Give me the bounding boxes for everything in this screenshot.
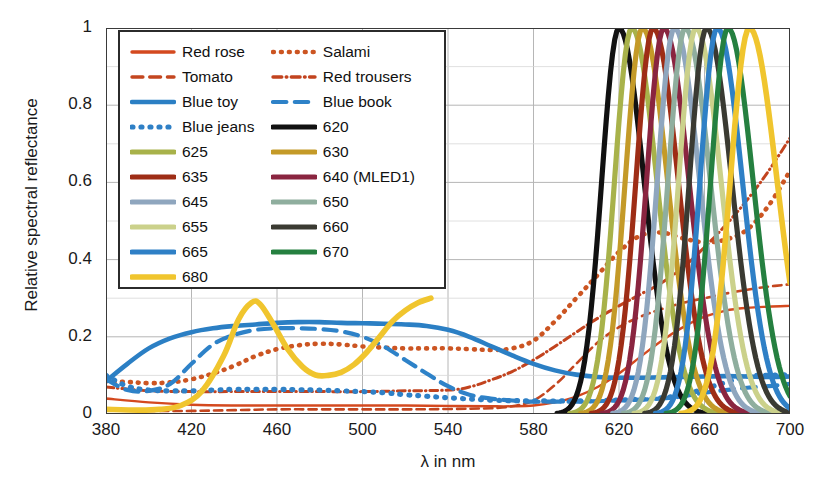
- legend-sample-cell: [271, 64, 323, 89]
- legend-sample-cell: [271, 164, 323, 189]
- legend-label: 680: [182, 264, 271, 289]
- legend-sample-cell: [130, 164, 182, 189]
- legend-row: 625630: [130, 139, 436, 164]
- x-axis-label: λ in nm: [106, 452, 790, 472]
- legend-label: 620: [323, 114, 436, 139]
- legend-swatch-red_rose: [130, 45, 176, 59]
- legend-row: 635640 (MLED1): [130, 164, 436, 189]
- chart-legend: Red roseSalamiTomatoRed trousersBlue toy…: [118, 30, 446, 289]
- legend-table: Red roseSalamiTomatoRed trousersBlue toy…: [130, 39, 436, 289]
- legend-sample-cell: [130, 264, 182, 289]
- legend-swatch-blue_book: [271, 95, 317, 109]
- y-tick-label: 0.8: [32, 94, 92, 114]
- legend-label: Salami: [323, 39, 436, 64]
- legend-swatch-red_trousers: [271, 70, 317, 84]
- legend-label: 625: [182, 139, 271, 164]
- legend-row: TomatoRed trousers: [130, 64, 436, 89]
- legend-swatch-salami: [271, 45, 317, 59]
- legend-label: 650: [323, 189, 436, 214]
- legend-label: 660: [323, 214, 436, 239]
- y-tick-label: 1: [32, 17, 92, 37]
- legend-label: 645: [182, 189, 271, 214]
- x-axis-ticks: 380420460500540580620660700: [0, 420, 825, 450]
- legend-label: Tomato: [182, 64, 271, 89]
- legend-sample-cell: [271, 264, 323, 289]
- legend-swatch-led625: [130, 145, 176, 159]
- legend-sample-cell: [271, 189, 323, 214]
- legend-sample-cell: [130, 114, 182, 139]
- x-tick-label: 500: [323, 420, 403, 440]
- legend-swatch-led635: [130, 170, 176, 184]
- x-tick-label: 700: [750, 420, 825, 440]
- legend-swatch-led645: [130, 195, 176, 209]
- legend-label: 640 (MLED1): [323, 164, 436, 189]
- spectral-reflectance-figure: Relative spectral reflectance λ in nm 00…: [0, 0, 825, 488]
- legend-swatch-led665: [130, 245, 176, 259]
- legend-sample-cell: [271, 89, 323, 114]
- legend-swatch-tomato: [130, 70, 176, 84]
- legend-row: Red roseSalami: [130, 39, 436, 64]
- legend-sample-cell: [130, 214, 182, 239]
- legend-label: Red trousers: [323, 64, 436, 89]
- legend-label: Blue book: [323, 89, 436, 114]
- legend-sample-cell: [271, 239, 323, 264]
- legend-swatch-blue_toy: [130, 95, 176, 109]
- legend-sample-cell: [130, 89, 182, 114]
- legend-label: Blue toy: [182, 89, 271, 114]
- legend-sample-cell: [130, 239, 182, 264]
- legend-sample-cell: [271, 139, 323, 164]
- legend-sample-cell: [130, 139, 182, 164]
- y-tick-label: 0.2: [32, 326, 92, 346]
- x-tick-label: 660: [665, 420, 745, 440]
- y-tick-label: 0.6: [32, 171, 92, 191]
- legend-row: 645650: [130, 189, 436, 214]
- legend-swatch-led660: [271, 220, 317, 234]
- legend-sample-cell: [271, 39, 323, 64]
- x-tick-label: 420: [152, 420, 232, 440]
- legend-label: 665: [182, 239, 271, 264]
- legend-row: 680: [130, 264, 436, 289]
- legend-swatch-led680: [130, 270, 176, 284]
- legend-label: 670: [323, 239, 436, 264]
- legend-row: 665670: [130, 239, 436, 264]
- legend-label: [323, 264, 436, 289]
- legend-swatch-led655: [130, 220, 176, 234]
- x-tick-label: 380: [66, 420, 146, 440]
- legend-swatch-led640: [271, 170, 317, 184]
- legend-swatch-led630: [271, 145, 317, 159]
- y-tick-label: 0.4: [32, 249, 92, 269]
- legend-row: Blue jeans620: [130, 114, 436, 139]
- legend-label: 630: [323, 139, 436, 164]
- legend-label: Blue jeans: [182, 114, 271, 139]
- x-tick-label: 580: [494, 420, 574, 440]
- x-tick-label: 620: [579, 420, 659, 440]
- legend-sample-cell: [130, 189, 182, 214]
- legend-swatch-blue_jeans: [130, 120, 176, 134]
- x-tick-label: 460: [237, 420, 317, 440]
- legend-swatch-led650: [271, 195, 317, 209]
- legend-label: Red rose: [182, 39, 271, 64]
- legend-swatch-led670: [271, 245, 317, 259]
- legend-sample-cell: [271, 214, 323, 239]
- y-axis-ticks: 00.20.40.60.81: [30, 0, 92, 488]
- legend-sample-cell: [271, 114, 323, 139]
- x-tick-label: 540: [408, 420, 488, 440]
- legend-row: 655660: [130, 214, 436, 239]
- legend-label: 635: [182, 164, 271, 189]
- legend-swatch-led620: [271, 120, 317, 134]
- legend-row: Blue toyBlue book: [130, 89, 436, 114]
- legend-label: 655: [182, 214, 271, 239]
- legend-sample-cell: [130, 64, 182, 89]
- legend-sample-cell: [130, 39, 182, 64]
